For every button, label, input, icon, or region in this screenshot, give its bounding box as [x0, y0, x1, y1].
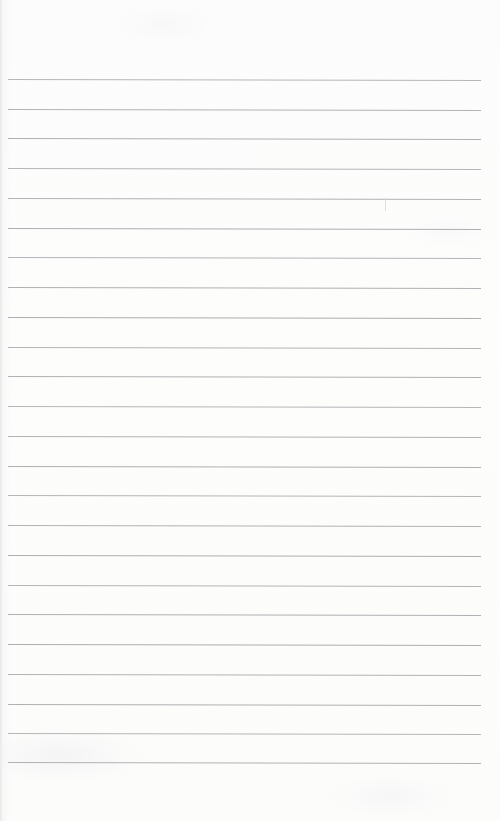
rule-line	[8, 406, 481, 408]
rule-line	[8, 138, 481, 140]
rule-line	[8, 555, 481, 557]
rule-line	[8, 198, 481, 200]
rule-line	[8, 733, 481, 735]
rule-line	[8, 674, 481, 676]
pencil-tick	[385, 198, 386, 211]
rule-line	[8, 109, 481, 111]
rule-line	[8, 525, 481, 527]
rule-line	[8, 436, 481, 438]
rule-line	[8, 585, 481, 587]
rule-line	[8, 495, 481, 497]
rule-line	[8, 317, 481, 319]
rule-line	[8, 257, 481, 259]
ruled-lines-layer	[0, 0, 500, 821]
rule-line	[8, 79, 481, 81]
rule-line	[8, 287, 481, 289]
rule-line	[8, 614, 481, 616]
rule-line	[8, 644, 481, 646]
rule-line	[8, 376, 481, 378]
rule-line	[8, 228, 481, 230]
rule-line	[8, 704, 481, 706]
rule-line	[8, 762, 481, 764]
rule-line	[8, 347, 481, 349]
rule-line	[8, 466, 481, 468]
rule-line	[8, 168, 481, 170]
scanned-page	[0, 0, 500, 821]
